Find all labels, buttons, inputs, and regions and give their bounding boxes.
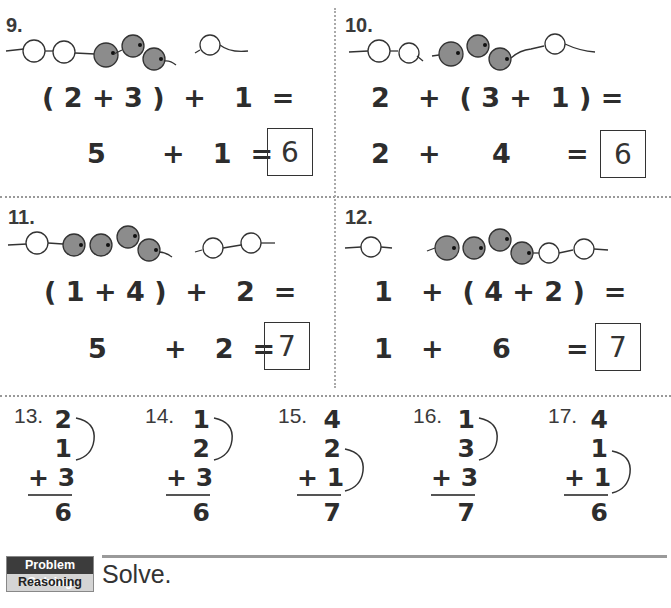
sum: 7 xyxy=(431,498,475,527)
sum-line xyxy=(297,494,341,496)
grouping-bracket-icon xyxy=(477,414,501,464)
addend-3: + 3 xyxy=(28,463,72,492)
addend-2: 1 xyxy=(28,434,72,463)
equation-line-2-left: 2 + xyxy=(371,138,441,169)
addend-1: 1 xyxy=(431,405,475,434)
equation-line-1: 1 + ( 4 + 2 ) = xyxy=(374,276,626,307)
addend-1: 2 xyxy=(28,405,72,434)
equation-line-1: ( 2 + 3 ) + 1 = xyxy=(42,82,294,113)
answer-box: 6 xyxy=(600,130,646,178)
sum-line xyxy=(564,494,608,496)
equation-line-2-right: + 1 = xyxy=(162,138,273,169)
sum: 6 xyxy=(28,498,72,527)
addend-1: 4 xyxy=(297,405,341,434)
sum-line xyxy=(431,494,475,496)
bead-string-icon xyxy=(0,222,280,270)
badge-title: Problem Solving xyxy=(7,557,93,574)
grouping-bracket-icon xyxy=(610,447,634,497)
divider-horizontal-2 xyxy=(0,395,671,397)
addend-3: + 1 xyxy=(297,463,341,492)
equation-line-1: 2 + ( 3 + 1 ) = xyxy=(371,82,623,113)
sum-line xyxy=(166,494,210,496)
bead-string-icon xyxy=(0,28,260,76)
problem-solving-badge: Problem Solving Reasoning xyxy=(6,556,94,592)
addend-3: + 3 xyxy=(431,463,475,492)
addend-1: 4 xyxy=(564,405,608,434)
sum-line xyxy=(28,494,72,496)
grouping-bracket-icon xyxy=(74,414,98,464)
addend-2: 2 xyxy=(297,434,341,463)
equation-line-2-middle: 4 xyxy=(492,138,511,169)
sum: 6 xyxy=(564,498,608,527)
answer-box: 7 xyxy=(264,322,310,370)
addend-3: + 3 xyxy=(166,463,210,492)
instruction-text: Solve. xyxy=(102,560,171,589)
section-rule xyxy=(102,555,667,558)
bead-string-icon xyxy=(335,28,600,76)
equation-line-2-left: 1 + xyxy=(374,333,444,364)
answer-box: 7 xyxy=(595,323,641,371)
equation-line-2-equals: = xyxy=(566,333,589,364)
addend-1: 1 xyxy=(166,405,210,434)
bead-string-icon xyxy=(335,222,615,270)
grouping-bracket-icon xyxy=(343,445,367,495)
badge-subtitle: Reasoning xyxy=(7,574,93,591)
equation-line-2-middle: 6 xyxy=(492,333,511,364)
addend-2: 3 xyxy=(431,434,475,463)
addend-3: + 1 xyxy=(564,463,608,492)
answer-box: 6 xyxy=(267,128,313,176)
equation-line-2-left: 5 xyxy=(87,138,106,169)
addend-2: 1 xyxy=(564,434,608,463)
equation-line-1: ( 1 + 4 ) + 2 = xyxy=(44,276,296,307)
equation-line-2-equals: = xyxy=(566,138,589,169)
equation-line-2-right: + 2 = xyxy=(164,333,275,364)
grouping-bracket-icon xyxy=(212,414,236,464)
equation-line-2-left: 5 xyxy=(88,333,107,364)
addend-2: 2 xyxy=(166,434,210,463)
sum: 7 xyxy=(297,498,341,527)
sum: 6 xyxy=(166,498,210,527)
